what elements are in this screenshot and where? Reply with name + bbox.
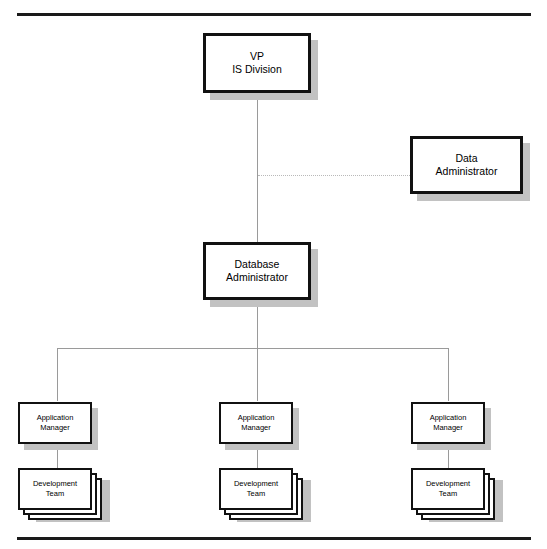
node-application-manager-3-line-1: Application (430, 413, 467, 423)
node-development-team-2-line-1: Development (234, 479, 278, 489)
node-development-team-3-line-2: Team (439, 489, 457, 499)
node-data-administrator[interactable]: Data Administrator (410, 136, 523, 194)
node-application-manager-3[interactable]: Application Manager (411, 402, 485, 444)
development-team-3-sheet-front: Development Team (411, 468, 485, 510)
node-vp-line-1: VP (250, 50, 264, 63)
node-development-team-1-line-2: Team (46, 489, 64, 499)
node-database-administrator[interactable]: Database Administrator (203, 242, 311, 300)
development-team-1-sheet-front: Development Team (18, 468, 92, 510)
connector-bus-to-application-manager-1 (57, 348, 58, 401)
connector-dotted-vp-to-data-administrator (258, 175, 410, 176)
connector-horizontal-bus (57, 348, 449, 349)
node-data-administrator-line-2: Administrator (436, 165, 498, 178)
node-database-administrator-line-2: Administrator (226, 271, 288, 284)
node-vp-line-2: IS Division (232, 63, 282, 76)
node-vp-is-division[interactable]: VP IS Division (203, 33, 311, 93)
connector-vp-to-database-administrator (257, 92, 258, 242)
node-development-team-1-line-1: Development (33, 479, 77, 489)
node-database-administrator-line-1: Database (235, 258, 280, 271)
node-development-team-3-line-1: Development (426, 479, 470, 489)
top-divider-rule (17, 13, 531, 16)
development-team-2-sheet-front: Development Team (219, 468, 293, 510)
node-application-manager-3-line-2: Manager (433, 423, 463, 433)
node-application-manager-1-line-2: Manager (40, 423, 70, 433)
bottom-divider-rule (17, 537, 531, 540)
node-application-manager-1[interactable]: Application Manager (18, 402, 92, 444)
org-chart-canvas: VP IS Division Data Administrator Databa… (0, 0, 547, 549)
node-data-administrator-line-1: Data (455, 152, 477, 165)
connector-bus-to-application-manager-2 (257, 348, 258, 401)
connector-bus-to-application-manager-3 (448, 348, 449, 401)
node-application-manager-2[interactable]: Application Manager (219, 402, 293, 444)
node-application-manager-2-line-2: Manager (241, 423, 271, 433)
node-development-team-2-line-2: Team (247, 489, 265, 499)
node-application-manager-2-line-1: Application (238, 413, 275, 423)
node-application-manager-1-line-1: Application (37, 413, 74, 423)
